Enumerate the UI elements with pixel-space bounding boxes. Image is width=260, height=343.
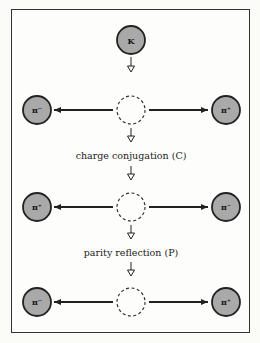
pion-right-1: π⁺ [212,96,240,124]
svg-text:π⁻: π⁻ [32,297,42,307]
decay-row-3: π⁻ π⁺ [23,288,240,316]
svg-text:π⁻: π⁻ [221,202,231,212]
pion-left-1: π⁻ [23,96,51,124]
svg-text:π⁻: π⁻ [32,105,42,115]
down-arrow-icon [128,166,135,180]
diagram-canvas: K π⁻ π⁺ charge conjugation (C) [0,0,260,343]
pion-right-2: π⁻ [212,193,240,221]
decay-row-2: π⁺ π⁻ [23,193,240,221]
down-arrow-icon [128,128,135,142]
down-arrow-icon [128,225,135,239]
svg-text:π⁺: π⁺ [221,105,231,115]
charge-conjugation-label: charge conjugation (C) [76,150,187,161]
kaon-label: K [128,36,136,46]
kaon-particle: K [117,26,145,54]
decay-row-1: π⁻ π⁺ [23,96,240,124]
pion-left-3: π⁻ [23,288,51,316]
svg-text:π⁺: π⁺ [221,297,231,307]
down-arrow-icon [128,262,135,276]
parity-reflection-label: parity reflection (P) [84,247,179,258]
pion-left-2: π⁺ [23,193,51,221]
pion-right-3: π⁺ [212,288,240,316]
down-arrow-icon [128,57,135,72]
svg-text:π⁺: π⁺ [32,202,42,212]
